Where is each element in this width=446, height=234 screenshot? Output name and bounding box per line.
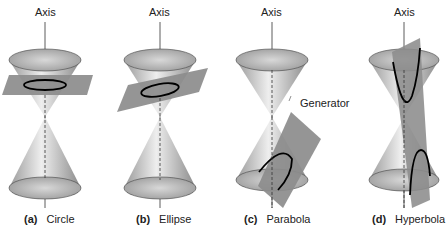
caption-letter: (b) — [136, 213, 150, 225]
caption-name: Parabola — [266, 213, 310, 225]
generator-label: Generator — [300, 97, 350, 109]
conic-sections-diagram — [0, 0, 446, 234]
caption-a: (a)Circle — [24, 213, 75, 225]
axis-label-d: Axis — [394, 6, 415, 18]
panel-ellipse — [117, 22, 208, 208]
caption-b: (b)Ellipse — [136, 213, 191, 225]
axis-label-a: Axis — [35, 6, 56, 18]
axis-label-c: Axis — [261, 6, 282, 18]
caption-letter: (a) — [24, 213, 37, 225]
caption-letter: (c) — [244, 213, 257, 225]
panel-hyperbola — [369, 22, 439, 208]
caption-c: (c)Parabola — [244, 213, 311, 225]
caption-letter: (d) — [372, 213, 386, 225]
caption-name: Hyperbola — [395, 213, 445, 225]
axis-label-b: Axis — [149, 6, 170, 18]
panel-circle — [2, 22, 93, 208]
caption-name: Circle — [46, 213, 74, 225]
caption-name: Ellipse — [159, 213, 191, 225]
caption-d: (d)Hyperbola — [372, 213, 445, 225]
panel-parabola — [236, 22, 321, 208]
